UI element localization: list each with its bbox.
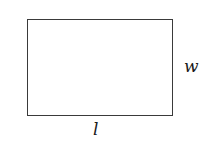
rectangle-shape bbox=[27, 19, 173, 116]
width-label: w bbox=[184, 58, 199, 75]
length-label: l bbox=[93, 121, 98, 138]
